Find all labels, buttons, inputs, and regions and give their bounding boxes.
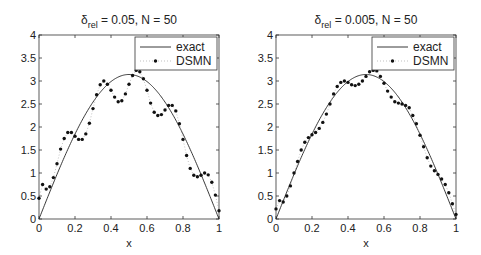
dsmn-point	[127, 83, 130, 86]
dsmn-point	[404, 104, 407, 107]
dsmn-point	[192, 174, 195, 177]
dsmn-point	[321, 121, 324, 124]
dsmn-point	[397, 101, 400, 104]
chart-panel-1: 00.20.40.60.8100.511.522.533.54xδrel = 0…	[21, 13, 222, 249]
dsmn-point	[296, 160, 299, 163]
dsmn-point	[214, 193, 217, 196]
dsmn-point	[189, 167, 192, 170]
y-tick-label: 1.5	[21, 144, 36, 156]
dsmn-point	[203, 171, 206, 174]
exact-curve	[39, 74, 219, 219]
chart-panel-2: 00.20.40.60.8100.511.522.533.54xδrel = 0…	[258, 13, 459, 249]
dsmn-point	[433, 169, 436, 172]
legend: exactDSMN	[372, 37, 454, 70]
dsmn-point	[77, 138, 80, 141]
dsmn-point	[357, 83, 360, 86]
y-tick-label: 1	[30, 167, 36, 179]
dsmn-point	[300, 148, 303, 151]
dsmn-point	[285, 194, 288, 197]
dsmn-point	[274, 207, 277, 210]
y-tick-label: 3.5	[21, 52, 36, 64]
legend-dsmn-marker	[391, 59, 394, 62]
dsmn-point	[415, 122, 418, 125]
dsmn-point	[447, 191, 450, 194]
title-subscript: rel	[321, 20, 331, 30]
dsmn-point	[339, 81, 342, 84]
dsmn-point	[41, 183, 44, 186]
y-tick-label: 4	[267, 29, 273, 41]
dsmn-point	[66, 131, 69, 134]
dsmn-point	[178, 122, 181, 125]
dsmn-point	[45, 187, 48, 190]
dsmn-point	[454, 213, 457, 216]
dsmn-point	[174, 109, 177, 112]
x-tick-label: 0	[273, 222, 279, 234]
figure: 00.20.40.60.8100.511.522.533.54xδrel = 0…	[0, 0, 481, 255]
dsmn-point	[153, 111, 156, 114]
dsmn-point	[91, 107, 94, 110]
y-tick-label: 2.5	[258, 98, 273, 110]
dsmn-point	[400, 102, 403, 105]
dsmn-point	[106, 83, 109, 86]
dsmn-point	[310, 133, 313, 136]
dsmn-point	[364, 75, 367, 78]
dsmn-point	[368, 70, 371, 73]
dsmn-point	[88, 122, 91, 125]
dsmn-point	[278, 199, 281, 202]
legend-exact-label: exact	[176, 40, 205, 54]
dsmn-point	[117, 100, 120, 103]
dsmn-point	[102, 79, 105, 82]
dsmn-point	[436, 173, 439, 176]
dsmn-point	[386, 89, 389, 92]
dsmn-point	[411, 114, 414, 117]
dsmn-point	[207, 173, 210, 176]
dsmn-point	[426, 156, 429, 159]
x-tick-label: 0.8	[175, 222, 190, 234]
dsmn-point	[37, 197, 40, 200]
x-tick-label: 1	[453, 222, 459, 234]
y-tick-label: 3	[267, 75, 273, 87]
legend-exact-label: exact	[413, 40, 442, 54]
dsmn-point	[289, 184, 292, 187]
x-axis-label: x	[363, 237, 369, 249]
dsmn-point	[73, 135, 76, 138]
legend-dsmn-label: DSMN	[413, 54, 448, 68]
y-tick-label: 2	[30, 121, 36, 133]
dsmn-point	[422, 145, 425, 148]
dsmn-line	[39, 70, 219, 210]
dsmn-point	[145, 89, 148, 92]
x-tick-label: 1	[216, 222, 222, 234]
dsmn-point	[171, 104, 174, 107]
dsmn-point	[199, 174, 202, 177]
dsmn-point	[393, 100, 396, 103]
dsmn-point	[156, 114, 159, 117]
dsmn-point	[350, 83, 353, 86]
dsmn-point	[343, 79, 346, 82]
dsmn-point	[99, 83, 102, 86]
y-tick-label: 1	[267, 167, 273, 179]
dsmn-point	[361, 79, 364, 82]
legend-dsmn-label: DSMN	[176, 54, 211, 68]
dsmn-point	[451, 202, 454, 205]
dsmn-point	[303, 140, 306, 143]
dsmn-point	[138, 70, 141, 73]
x-tick-label: 0.6	[139, 222, 154, 234]
y-tick-label: 4	[30, 29, 36, 41]
y-tick-label: 0	[30, 213, 36, 225]
dsmn-point	[181, 138, 184, 141]
dsmn-point	[217, 209, 220, 212]
title-rest: = 0.05, N = 50	[98, 13, 178, 27]
x-tick-label: 0.4	[340, 222, 355, 234]
dsmn-point	[354, 84, 357, 87]
dsmn-point	[325, 112, 328, 115]
dsmn-point	[62, 137, 65, 140]
dsmn-point	[48, 185, 51, 188]
dsmn-point	[429, 164, 432, 167]
dsmn-point	[390, 95, 393, 98]
x-tick-label: 0.4	[103, 222, 118, 234]
y-tick-label: 2	[267, 121, 273, 133]
y-tick-label: 0.5	[258, 190, 273, 202]
x-tick-label: 0	[36, 222, 42, 234]
y-tick-label: 0.5	[21, 190, 36, 202]
title-rest: = 0.005, N = 50	[331, 13, 417, 27]
